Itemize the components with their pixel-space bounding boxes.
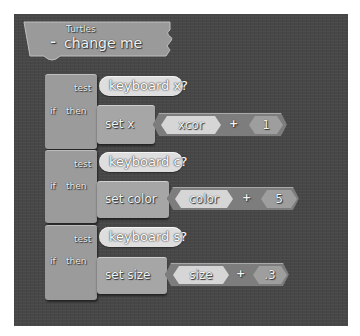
command-block-1[interactable]: set x [97, 105, 155, 144]
expression-3[interactable]: size + .3 [165, 263, 289, 286]
variable-reporter[interactable]: size [173, 266, 229, 284]
procedure-header-block[interactable]: Turtles – change me [20, 20, 182, 58]
procedure-name[interactable]: change me [64, 35, 142, 51]
condition-pill-2[interactable]: keyboard c? [99, 152, 183, 172]
command-label: set color [105, 192, 157, 206]
operator-plus: + [236, 267, 245, 280]
expression-2[interactable]: color + 5 [167, 187, 299, 210]
then-label: then [66, 106, 86, 116]
condition-pill-1[interactable]: keyboard x? [99, 76, 183, 96]
number-input[interactable]: .3 [253, 266, 287, 284]
test-label: test [74, 83, 91, 93]
test-label: test [74, 234, 91, 244]
then-label: then [66, 181, 86, 191]
variable-reporter[interactable]: color [175, 190, 233, 208]
number-input[interactable]: 5 [261, 190, 297, 208]
if-label: if [50, 256, 56, 266]
category-label: Turtles [66, 24, 96, 34]
collapse-toggle[interactable]: – [50, 35, 56, 49]
expression-1[interactable]: xcor + 1 [153, 113, 287, 136]
if-label: if [50, 106, 56, 116]
operator-plus: + [229, 117, 238, 130]
then-label: then [66, 256, 86, 266]
variable-reporter[interactable]: xcor [161, 116, 221, 134]
if-block-1[interactable]: test if then [45, 74, 97, 149]
condition-text: keyboard c? [109, 154, 187, 169]
condition-pill-3[interactable]: keyboard s? [99, 227, 183, 247]
condition-text: keyboard s? [109, 229, 187, 244]
if-block-2[interactable]: test if then [45, 150, 97, 223]
number-input[interactable]: 1 [249, 116, 283, 134]
if-label: if [50, 181, 56, 191]
operator-plus: + [242, 191, 251, 204]
command-block-3[interactable]: set size [97, 257, 167, 294]
test-label: test [74, 159, 91, 169]
command-label: set size [105, 268, 150, 282]
command-label: set x [105, 117, 134, 131]
if-block-3[interactable]: test if then [45, 225, 97, 300]
condition-text: keyboard x? [109, 78, 188, 93]
command-block-2[interactable]: set color [97, 181, 169, 218]
